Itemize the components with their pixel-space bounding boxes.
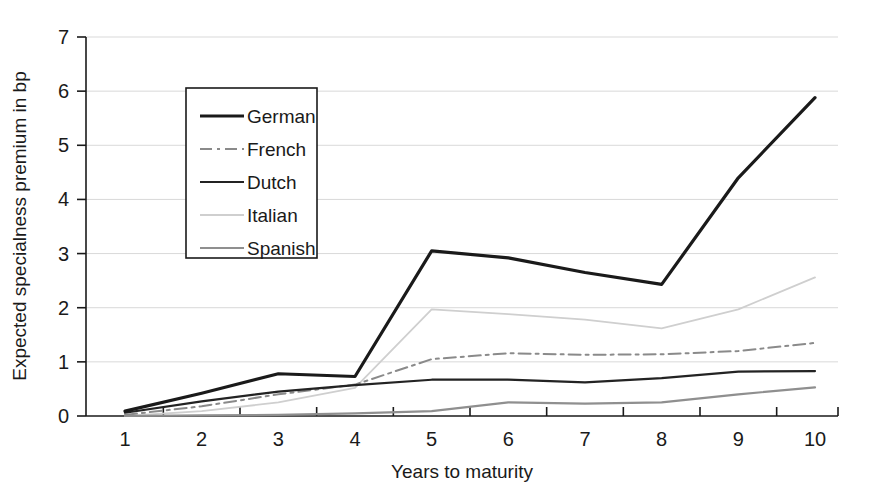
y-tick-label: 5 <box>58 134 69 156</box>
x-axis-title: Years to maturity <box>391 461 533 482</box>
y-tick-label: 3 <box>58 243 69 265</box>
chart-background <box>0 0 870 494</box>
legend-label-spanish: Spanish <box>247 238 316 259</box>
y-tick-label: 2 <box>58 297 69 319</box>
x-tick-label: 4 <box>349 428 360 450</box>
legend-label-dutch: Dutch <box>247 172 297 193</box>
x-tick-label: 1 <box>119 428 130 450</box>
chart-container: 01234567 12345678910 Expected specialnes… <box>0 0 870 494</box>
legend-label-german: German <box>247 106 316 127</box>
x-tick-label: 2 <box>196 428 207 450</box>
legend-label-italian: Italian <box>247 205 298 226</box>
legend-label-french: French <box>247 139 306 160</box>
line-chart: 01234567 12345678910 Expected specialnes… <box>0 0 870 494</box>
y-axis-title: Expected specialness premium in bp <box>9 71 30 380</box>
x-tick-label: 7 <box>579 428 590 450</box>
x-tick-label: 5 <box>426 428 437 450</box>
y-tick-label: 1 <box>58 351 69 373</box>
y-tick-label: 6 <box>58 80 69 102</box>
y-tick-label: 4 <box>58 188 69 210</box>
x-tick-label: 6 <box>503 428 514 450</box>
x-tick-label: 9 <box>733 428 744 450</box>
x-tick-label: 8 <box>656 428 667 450</box>
y-tick-label: 7 <box>58 26 69 48</box>
chart-legend: GermanFrenchDutchItalianSpanish <box>186 88 317 259</box>
y-tick-label: 0 <box>58 405 69 427</box>
x-tick-label: 10 <box>804 428 826 450</box>
x-tick-label: 3 <box>273 428 284 450</box>
